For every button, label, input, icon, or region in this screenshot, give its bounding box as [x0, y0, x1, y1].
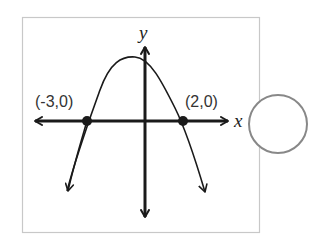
- point-label-neg3-0: (-3,0): [35, 93, 73, 110]
- graph-frame: [23, 18, 260, 233]
- y-axis-label: y: [137, 22, 148, 43]
- point-2-0: [178, 116, 188, 126]
- answer-radio-button[interactable]: [249, 95, 307, 153]
- point-label-2-0: (2,0): [185, 93, 218, 110]
- point-neg3-0: [82, 116, 92, 126]
- x-axis-label: x: [233, 110, 243, 131]
- graph-canvas: (-3,0) (2,0) y x: [0, 0, 322, 239]
